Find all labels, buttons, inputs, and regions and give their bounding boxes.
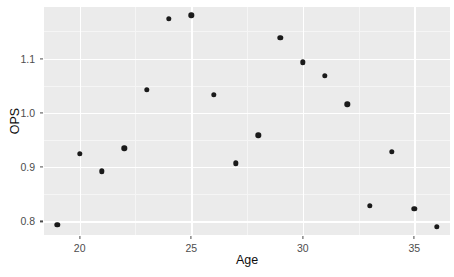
gridline-major-vertical [80,7,81,235]
scatter-plot-figure: 0.80.91.01.120253035 OPS Age [0,0,454,277]
data-point [367,203,372,208]
gridline-major-horizontal [44,59,450,60]
gridline-minor-vertical [135,7,136,235]
y-axis-tick-mark [40,221,43,222]
x-axis-title: Age [44,253,450,267]
data-point [189,12,194,17]
data-point [144,87,149,92]
x-axis-tick-label: 25 [185,243,197,254]
x-axis-tick-mark [79,236,80,239]
gridline-minor-vertical [359,7,360,235]
gridline-major-horizontal [44,113,450,114]
data-point [255,132,260,137]
data-point [166,16,171,21]
y-axis-title: OPS [8,108,22,134]
gridline-major-horizontal [44,167,450,168]
gridline-minor-horizontal [44,140,450,141]
data-point [77,151,82,156]
gridline-minor-horizontal [44,31,450,32]
gridline-minor-vertical [247,7,248,235]
y-axis-tick-label: 0.8 [5,216,35,227]
gridline-minor-horizontal [44,194,450,195]
x-axis-tick-label: 30 [297,243,309,254]
data-point [99,169,104,174]
data-point [412,206,417,211]
x-axis-tick-mark [414,236,415,239]
gridline-minor-horizontal [44,86,450,87]
gridline-major-horizontal [44,221,450,222]
y-axis-tick-mark [40,58,43,59]
y-axis-tick-label: 1.1 [5,53,35,64]
y-axis-tick-mark [40,112,43,113]
data-point [278,35,283,40]
gridline-major-vertical [414,7,415,235]
gridline-major-vertical [191,7,192,235]
x-axis-tick-label: 35 [408,243,420,254]
data-point [389,149,394,154]
data-point [233,161,238,166]
plot-panel [44,7,450,235]
data-point [345,101,350,106]
data-point [211,92,216,97]
data-point [300,60,305,65]
gridline-major-vertical [303,7,304,235]
x-axis-tick-mark [302,236,303,239]
y-axis-tick-label: 0.9 [5,162,35,173]
data-point [322,73,327,78]
data-point [434,224,439,229]
x-axis-tick-mark [191,236,192,239]
x-axis-tick-label: 20 [74,243,86,254]
data-point [55,222,60,227]
y-axis-tick-mark [40,167,43,168]
data-point [122,145,127,150]
